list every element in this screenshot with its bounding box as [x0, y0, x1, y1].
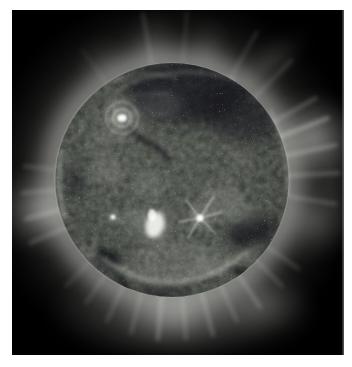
photo-edge-artifact: [342, 10, 344, 355]
bright-features: [55, 63, 289, 297]
page-background: [0, 0, 352, 367]
sun-photo: [12, 10, 344, 355]
sun-image: [12, 10, 344, 355]
